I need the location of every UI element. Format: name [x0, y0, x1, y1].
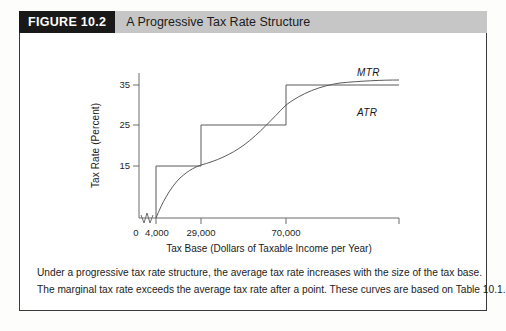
x-axis-title: Tax Base (Dollars of Taxable Income per … [139, 243, 399, 254]
figure-number-tag: FIGURE 10.2 [19, 11, 115, 33]
y-tick-label-25: 25 [104, 119, 130, 130]
y-axis-title: Tax Rate (Percent) [90, 103, 101, 188]
caption-line-1: Under a progressive tax rate structure, … [37, 265, 471, 282]
y-tick-label-15: 15 [104, 160, 130, 171]
figure-caption: Under a progressive tax rate structure, … [37, 265, 471, 298]
atr-curve-label: ATR [357, 107, 377, 118]
atr-curve [156, 80, 399, 218]
x-tick-label-4000: 4,000 [139, 227, 175, 238]
x-tick-label-29000: 29,000 [180, 227, 222, 238]
chart-plot-area: 35 25 15 Tax Rate (Percent) 0 4,000 29,0… [20, 33, 486, 261]
figure-container: FIGURE 10.2 A Progressive Tax Rate Struc… [0, 0, 506, 331]
x-tick-label-70000: 70,000 [265, 227, 307, 238]
figure-title: A Progressive Tax Rate Structure [115, 11, 487, 33]
mtr-step-curve [156, 85, 399, 218]
mtr-curve-label: MTR [357, 67, 380, 78]
figure-header: FIGURE 10.2 A Progressive Tax Rate Struc… [19, 11, 487, 33]
caption-line-2: The marginal tax rate exceeds the averag… [37, 282, 471, 299]
figure-body-frame: 35 25 15 Tax Rate (Percent) 0 4,000 29,0… [19, 33, 487, 311]
y-tick-label-35: 35 [104, 79, 130, 90]
